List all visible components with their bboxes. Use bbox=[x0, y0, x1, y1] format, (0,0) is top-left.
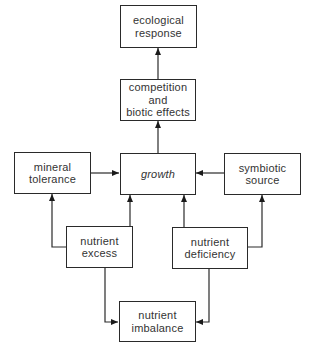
node-label: nutrient bbox=[191, 236, 229, 249]
node-label: source bbox=[245, 174, 279, 187]
edge-imbalance-excess bbox=[105, 268, 118, 322]
node-label: competition bbox=[129, 81, 187, 94]
node-label: ecological bbox=[133, 14, 184, 27]
node-label: response bbox=[135, 27, 182, 40]
node-label: mineral bbox=[34, 161, 71, 174]
node-label: deficiency bbox=[185, 248, 236, 261]
node-growth: growth bbox=[120, 153, 196, 195]
node-mineral-tolerance: mineral tolerance bbox=[14, 152, 91, 194]
node-label: tolerance bbox=[29, 173, 76, 186]
edge-excess-to-mineral bbox=[52, 194, 66, 247]
node-label: imbalance bbox=[132, 322, 184, 335]
edge-deficiency-to-symbiotic bbox=[248, 195, 262, 247]
node-label: nutrient bbox=[138, 309, 176, 322]
node-label: symbiotic bbox=[239, 162, 287, 175]
node-nutrient-imbalance: nutrient imbalance bbox=[119, 301, 196, 342]
node-ecological-response: ecological response bbox=[120, 5, 197, 48]
node-label: biotic effects bbox=[126, 106, 190, 119]
node-label: nutrient bbox=[80, 235, 118, 248]
nutrient-flow-diagram: ecological response competition and biot… bbox=[0, 0, 309, 353]
node-label: and bbox=[149, 94, 168, 107]
node-nutrient-deficiency: nutrient deficiency bbox=[172, 227, 248, 269]
edge-imbalance-deficiency bbox=[196, 269, 209, 322]
node-label: growth bbox=[141, 168, 175, 181]
node-label: excess bbox=[82, 247, 117, 260]
node-competition-biotic-effects: competition and biotic effects bbox=[120, 79, 196, 121]
node-symbiotic-source: symbiotic source bbox=[224, 153, 301, 195]
node-nutrient-excess: nutrient excess bbox=[66, 226, 133, 268]
